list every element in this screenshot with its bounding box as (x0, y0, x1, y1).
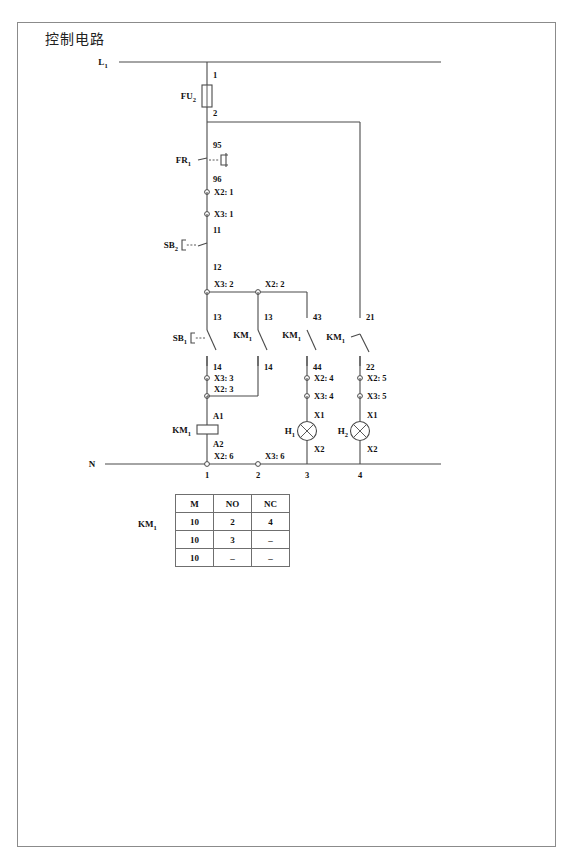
km1-hold-designator: KM1 (233, 330, 252, 342)
table-header-row: M NO NC (176, 495, 290, 513)
column-numbers: 1 2 3 4 (205, 470, 363, 480)
table-cell-nc: – (252, 549, 290, 567)
distribution-bus (207, 292, 307, 318)
sb1-out-terminal-label: 14 (213, 362, 222, 372)
table-cell-nc: 4 (252, 513, 290, 531)
overload-relay-fr1: FR1 (176, 153, 228, 168)
km1-aux-nc-in-terminal-label: 21 (366, 312, 375, 322)
table-header-no: NO (214, 495, 252, 513)
fuse-out-terminal-label: 2 (213, 108, 217, 118)
terminal-x3-1-label: X3: 1 (214, 209, 234, 219)
terminal-x3-3: X3: 3 (205, 373, 234, 383)
table-cell-m: 10 (176, 531, 214, 549)
table-cell-m: 10 (176, 549, 214, 567)
terminal-x3-6-label: X3: 6 (265, 451, 285, 461)
terminal-x2-4: X2: 4 (305, 373, 335, 383)
rail-l1: L1 (98, 57, 441, 69)
terminal-x2-1-label: X2: 1 (214, 187, 234, 197)
start-button-sb1[interactable]: SB1 (173, 330, 216, 366)
terminal-x3-2-label: X3: 2 (214, 279, 234, 289)
terminal-x3-3-label: X3: 3 (214, 373, 234, 383)
figure-page: 控制电路 L1 1 FU2 2 95 (0, 0, 574, 862)
sb2-designator: SB2 (164, 240, 178, 252)
column-number-1: 1 (205, 470, 209, 480)
fr1-designator: FR1 (176, 155, 191, 167)
table-cell-m: 10 (176, 513, 214, 531)
column-number-3: 3 (305, 470, 309, 480)
coil-designator: KM1 (172, 425, 191, 437)
column-number-4: 4 (358, 470, 363, 480)
stop-button-sb2[interactable]: SB2 (164, 240, 207, 253)
km1-aux-nc-out-terminal-label: 22 (366, 362, 375, 372)
fuse-fu2: FU2 (181, 85, 212, 107)
terminal-x2-5: X2: 5 (358, 373, 387, 383)
table-cell-no: – (214, 549, 252, 567)
terminal-x2-5-label: X2: 5 (367, 373, 387, 383)
km1-aux-nc-designator: KM1 (326, 332, 345, 344)
km1-aux-no-out-terminal-label: 44 (313, 362, 322, 372)
circuit-schematic: L1 1 FU2 2 95 (0, 0, 574, 862)
lamp2-designator: H2 (338, 426, 348, 438)
km1-aux-no-in-terminal-label: 43 (313, 312, 322, 322)
terminal-x3-5: X3: 5 (358, 391, 387, 401)
table-header-m: M (176, 495, 214, 513)
lamp2-in-terminal-label: X1 (367, 410, 377, 420)
fuse-in-terminal-label: 1 (213, 70, 217, 80)
contact-table-device-label: KM1 (138, 519, 157, 531)
sb1-designator: SB1 (173, 333, 187, 345)
contactor-coil-km1: KM1 (172, 425, 218, 437)
column-number-2: 2 (256, 470, 260, 480)
km1-aux-no-designator: KM1 (282, 330, 301, 342)
holding-contact-km1: KM1 (233, 330, 267, 366)
km1-hold-in-terminal-label: 13 (264, 312, 273, 322)
coil-out-terminal-label: A2 (213, 439, 223, 449)
km1-hold-out-terminal-label: 14 (264, 362, 273, 372)
fr1-in-terminal-label: 95 (213, 140, 222, 150)
coil-in-terminal-label: A1 (213, 411, 223, 421)
rail-n-label: N (89, 459, 96, 469)
aux-nc-contact-km1: KM1 (326, 332, 369, 366)
table-cell-no: 3 (214, 531, 252, 549)
terminal-x2-4-label: X2: 4 (314, 373, 334, 383)
signal-lamp-h2: H2 (338, 422, 370, 441)
table-cell-no: 2 (214, 513, 252, 531)
terminal-x2-1: X2: 1 (205, 187, 234, 197)
sb2-out-terminal-label: 12 (213, 262, 222, 272)
terminal-x3-4: X3: 4 (305, 391, 335, 401)
aux-no-contact-km1: KM1 (282, 330, 316, 366)
table-row: 10 – – (176, 549, 290, 567)
sb1-in-terminal-label: 13 (213, 312, 222, 322)
lamp1-out-terminal-label: X2 (314, 444, 324, 454)
lamp1-designator: H1 (285, 426, 295, 438)
signal-lamp-h1: H1 (285, 422, 317, 441)
lamp2-out-terminal-label: X2 (367, 444, 377, 454)
terminal-x3-5-label: X3: 5 (367, 391, 387, 401)
fr1-out-terminal-label: 96 (213, 174, 222, 184)
terminal-x3-4-label: X3: 4 (314, 391, 334, 401)
terminal-x2-3-label: X2: 3 (214, 384, 234, 394)
rail-l1-label: L1 (98, 57, 107, 69)
table-cell-nc: – (252, 531, 290, 549)
table-header-nc: NC (252, 495, 290, 513)
sb2-in-terminal-label: 11 (213, 225, 221, 235)
table-row: 10 2 4 (176, 513, 290, 531)
table-row: 10 3 – (176, 531, 290, 549)
fuse-designator: FU2 (181, 91, 196, 103)
contact-configuration-table: M NO NC 10 2 4 10 3 – 10 – – (175, 494, 290, 567)
terminal-x3-1: X3: 1 (205, 209, 234, 219)
terminal-x2-6-label: X2: 6 (214, 451, 234, 461)
lamp1-in-terminal-label: X1 (314, 410, 324, 420)
terminal-x2-2-label: X2: 2 (265, 279, 285, 289)
